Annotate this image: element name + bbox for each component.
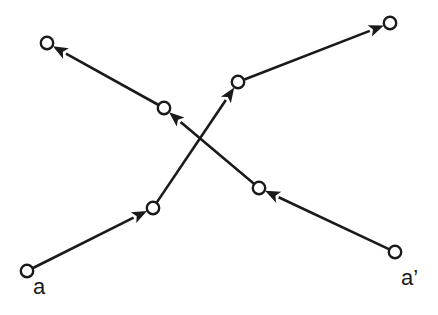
node-a’-1 <box>253 182 265 194</box>
node-a’-0 <box>389 246 401 258</box>
node-a-2 <box>232 76 244 88</box>
arrow-head-a-1 <box>221 88 234 104</box>
node-a’-3 <box>41 37 53 49</box>
node-a-3 <box>384 17 396 29</box>
path-segment-a’-2 <box>66 54 159 105</box>
arrow-head-a-0 <box>131 211 147 223</box>
arrow-head-a’-0 <box>265 191 281 203</box>
path-segment-a-2 <box>244 31 370 80</box>
arrow-head-a-2 <box>368 25 384 36</box>
node-a-1 <box>147 202 159 214</box>
figure-canvas: a a’ <box>0 0 438 315</box>
node-a’-2 <box>158 102 170 114</box>
path-group-a-prime <box>53 46 390 249</box>
point-label-a-prime: a’ <box>401 267 418 289</box>
point-label-a: a <box>33 276 45 298</box>
arrow-head-a’-2 <box>53 46 69 59</box>
trajectory-diagram <box>0 0 438 315</box>
path-segment-a-0 <box>33 218 134 269</box>
node-a-0 <box>21 265 33 277</box>
path-segment-a’-0 <box>279 197 390 249</box>
